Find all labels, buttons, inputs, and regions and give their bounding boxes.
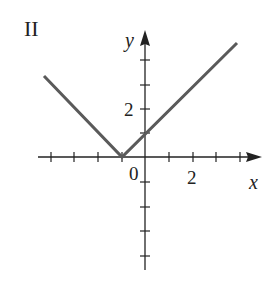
y-tick-label-2: 2 — [124, 99, 134, 120]
x-axis-arrow-icon — [246, 152, 262, 162]
graph: II y x 0 2 2 — [0, 0, 278, 282]
y-axis-label: y — [123, 29, 134, 52]
x-tick-label-2: 2 — [187, 167, 197, 188]
y-axis-arrow-icon — [140, 30, 150, 46]
origin-label: 0 — [129, 163, 139, 184]
panel-label: II — [24, 16, 39, 41]
x-axis-label: x — [248, 171, 258, 193]
